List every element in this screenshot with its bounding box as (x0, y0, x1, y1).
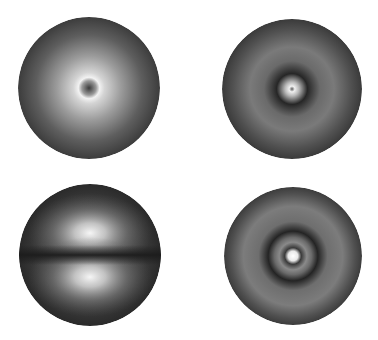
orbital-panel-top-left (18, 17, 160, 159)
radial-density-3s-icon (224, 187, 362, 325)
dumbbell-density-2p-icon (19, 184, 161, 326)
orbital-panel-bottom-left (19, 184, 161, 326)
radial-density-1s-icon (18, 17, 160, 159)
radial-density-2s-icon (222, 19, 362, 159)
orbital-panel-top-right (222, 19, 362, 159)
orbital-panel-bottom-right (224, 187, 362, 325)
